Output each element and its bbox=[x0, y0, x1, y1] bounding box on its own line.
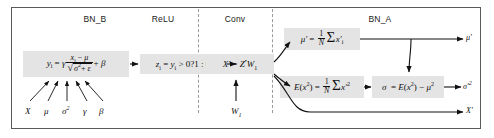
formula-mean: μ' = 1NΣx'i bbox=[284, 28, 360, 50]
formula-expectation-expression: E(x2) = 1NΣx'2 bbox=[294, 79, 350, 96]
input-label-beta: β bbox=[99, 106, 103, 116]
output-label-sigma-squared: σ'2 bbox=[463, 82, 472, 91]
output-label-mu: μ' bbox=[466, 33, 472, 42]
formula-conv: X' = Z•W1 bbox=[206, 54, 274, 74]
formula-expectation: E(x2) = 1NΣx'2 bbox=[280, 76, 364, 98]
column-title-conv: Conv bbox=[180, 14, 290, 24]
formula-conv-expression: X' = Z•W1 bbox=[223, 60, 258, 69]
formula-bn-b: yi = γxi − μ√σ2+ ε+ β bbox=[23, 51, 129, 77]
formula-bn-b-expression: yi = γxi − μ√σ2+ ε+ β bbox=[47, 54, 106, 73]
input-label-gamma: γ bbox=[83, 106, 87, 116]
diagram-canvas: BN_B ReLU Conv BN_A yi = γxi − μ√σ2+ ε+ … bbox=[0, 0, 494, 138]
input-label-x: X bbox=[25, 106, 31, 116]
formula-variance: σ = E(x2) − μ2 bbox=[372, 76, 444, 98]
column-title-bn-a: BN_A bbox=[325, 14, 435, 24]
input-label-mu: μ bbox=[44, 106, 49, 116]
output-label-x: X' bbox=[466, 106, 473, 115]
input-label-sigma-squared: σ2 bbox=[62, 106, 69, 116]
formula-relu-expression: zi = yi > 0?1 : 0 bbox=[156, 60, 211, 69]
input-label-conv-weight: W1 bbox=[231, 106, 242, 116]
formula-variance-expression: σ = E(x2) − μ2 bbox=[382, 83, 434, 92]
formula-mean-expression: μ' = 1NΣx'i bbox=[301, 31, 344, 48]
